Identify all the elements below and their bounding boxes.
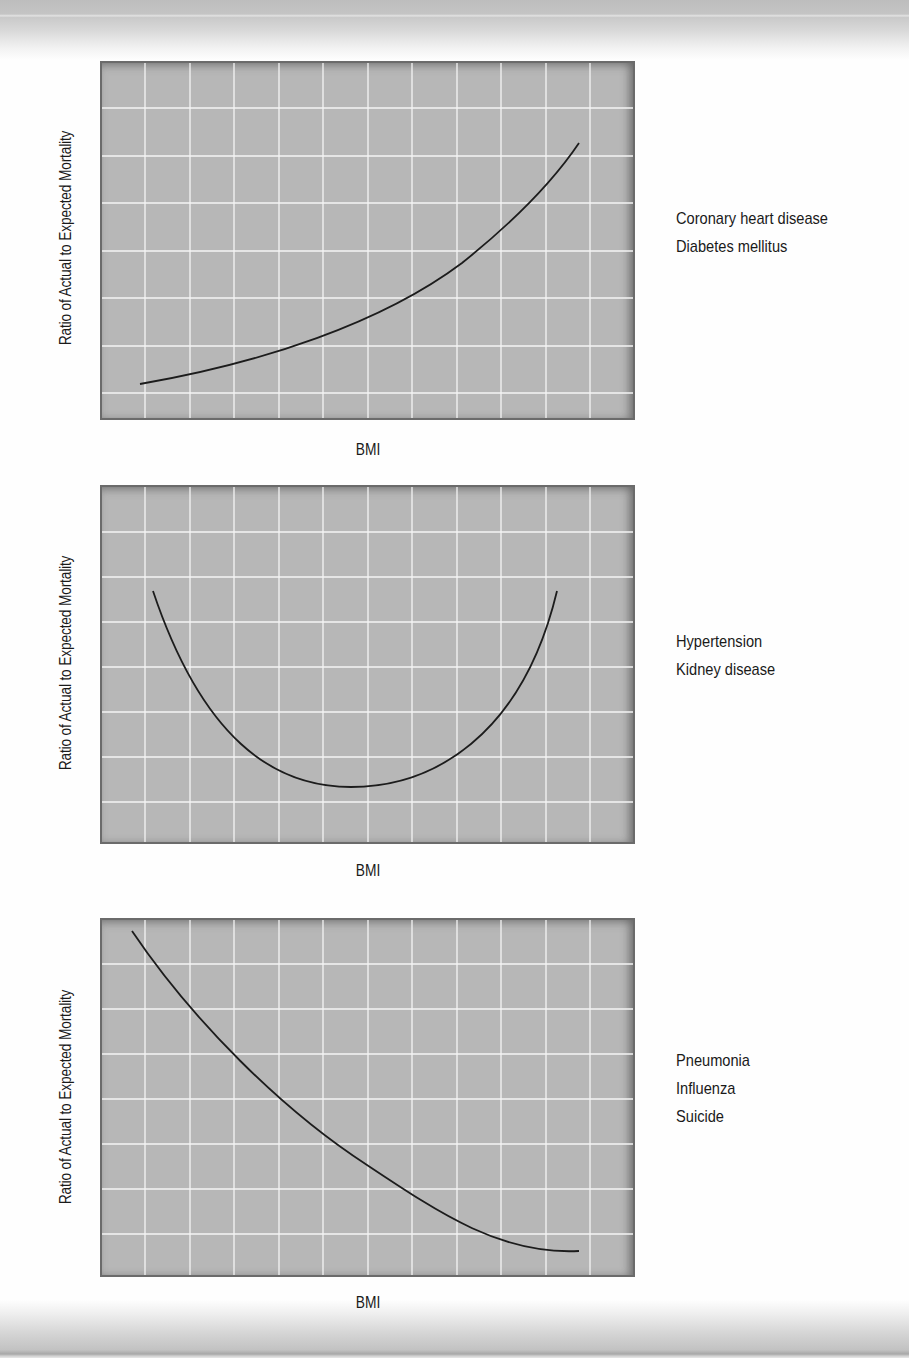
bottom-page-band [0,1300,909,1358]
plot-area [100,485,635,844]
x-axis-label-text: BMI [356,1294,380,1312]
chart-panel-3: Ratio of Actual to Expected Mortality BM… [0,0,909,420]
legend-item: Kidney disease [676,656,775,684]
legend: Hypertension Kidney disease [676,628,791,684]
grid-and-curve [102,920,633,1275]
x-axis-label-text: BMI [356,862,380,880]
y-axis-label-text: Ratio of Actual to Expected Mortality [57,556,75,771]
y-axis-label-text: Ratio of Actual to Expected Mortality [57,990,75,1205]
grid-lines [102,920,633,1275]
legend-item: Hypertension [676,628,775,656]
x-axis-label-text: BMI [356,441,380,459]
legend-item: Influenza [676,1075,750,1103]
mortality-curve [132,931,579,1251]
legend-item: Suicide [676,1103,750,1131]
legend: Pneumonia Influenza Suicide [676,1047,762,1131]
grid-and-curve [102,487,633,842]
plot-area [100,918,635,1277]
legend-item: Pneumonia [676,1047,750,1075]
grid-lines [102,487,633,842]
